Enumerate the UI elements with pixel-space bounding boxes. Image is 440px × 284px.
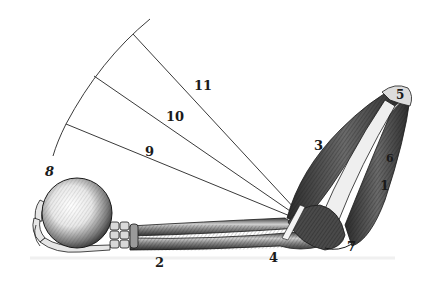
upper-arm bbox=[282, 86, 412, 250]
anatomical-arm-figure: 1 2 3 4 5 6 7 8 9 10 11 bbox=[0, 0, 440, 284]
label-9: 9 bbox=[145, 144, 154, 159]
label-5: 5 bbox=[396, 88, 404, 102]
label-4: 4 bbox=[269, 250, 278, 265]
label-8: 8 bbox=[45, 164, 54, 179]
angle-arc bbox=[53, 19, 150, 156]
label-10: 10 bbox=[166, 109, 184, 124]
label-3: 3 bbox=[314, 138, 323, 153]
radial-line-11 bbox=[133, 34, 296, 210]
label-7: 7 bbox=[347, 239, 356, 254]
label-6: 6 bbox=[386, 152, 394, 165]
wrist-carpals bbox=[110, 222, 138, 248]
radial-line-10 bbox=[94, 76, 293, 213]
label-2: 2 bbox=[155, 255, 164, 270]
label-1: 1 bbox=[380, 178, 389, 193]
label-11: 11 bbox=[194, 78, 212, 93]
